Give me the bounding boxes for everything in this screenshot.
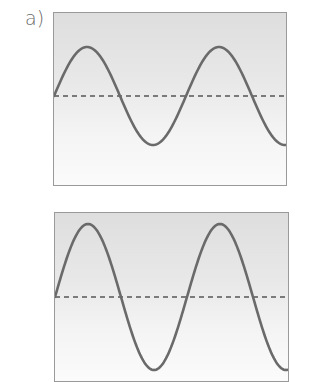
wave-panel-a	[53, 12, 287, 186]
panel-a-label: a)	[25, 9, 44, 28]
wave-plot-b	[55, 213, 289, 382]
sine-wave-curve	[54, 47, 287, 145]
wave-plot-a	[54, 13, 287, 186]
wave-panel-b	[54, 212, 289, 382]
